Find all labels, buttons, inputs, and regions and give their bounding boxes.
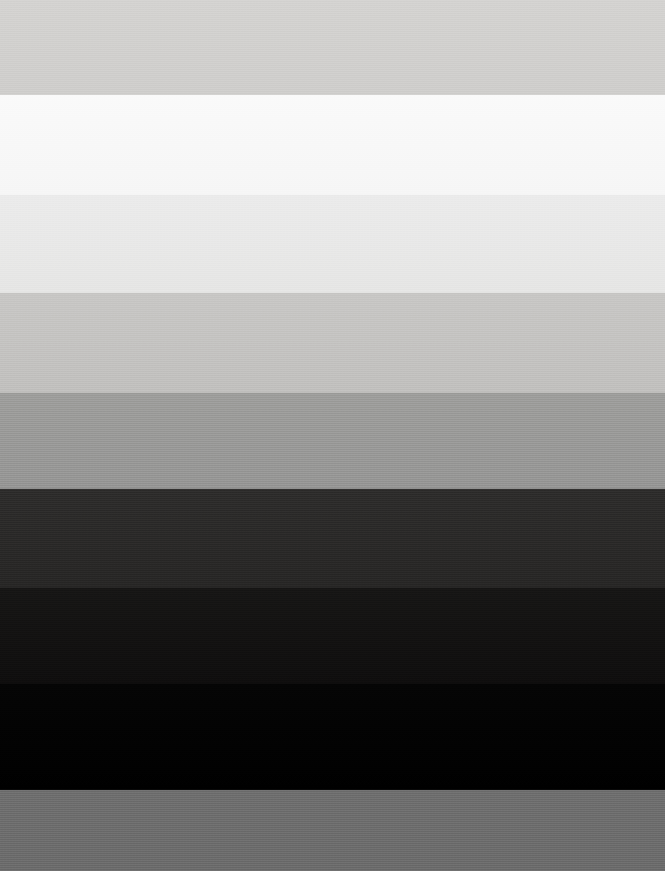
band-medium-gray [0,393,665,489]
band-light-gray-top [0,0,665,95]
band-grain-texture [0,393,665,489]
band-grain-texture [0,588,665,684]
band-grain-texture [0,95,665,195]
band-grain-texture [0,790,665,871]
grayscale-step-wedge-canvas [0,0,665,871]
band-grain-texture [0,684,665,790]
band-mid-gray-bottom [0,790,665,871]
band-near-white [0,95,665,195]
band-grain-texture [0,0,665,95]
band-very-light-gray [0,195,665,293]
band-grain-texture [0,195,665,293]
band-light-medium-gray [0,293,665,393]
band-black [0,684,665,790]
band-dark-charcoal [0,489,665,588]
band-very-dark [0,588,665,684]
band-grain-texture [0,293,665,393]
band-grain-texture [0,489,665,588]
